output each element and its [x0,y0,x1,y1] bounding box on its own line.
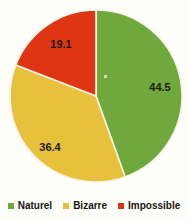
legend-swatch-icon [63,203,69,209]
pie-slice-group [10,10,182,182]
legend-item-naturel[interactable]: Naturel [8,201,52,211]
chart-legend: NaturelBizarreImpossible [0,196,188,216]
legend-label: Bizarre [73,201,107,211]
pie-data-label-impossible: 19.1 [50,38,71,50]
legend-swatch-icon [8,203,14,209]
legend-label: Naturel [18,201,52,211]
pie-data-label-naturel: 44.5 [149,81,170,93]
pie-center-marker-icon [104,75,107,78]
legend-swatch-icon [118,203,124,209]
pie-chart: 44.536.419.1 NaturelBizarreImpossible [0,0,188,221]
legend-item-impossible[interactable]: Impossible [118,201,180,211]
pie-svg: 44.536.419.1 [0,0,188,192]
legend-item-bizarre[interactable]: Bizarre [63,201,107,211]
legend-label: Impossible [128,201,180,211]
pie-plot-area: 44.536.419.1 [0,0,188,192]
pie-data-label-bizarre: 36.4 [39,141,61,153]
